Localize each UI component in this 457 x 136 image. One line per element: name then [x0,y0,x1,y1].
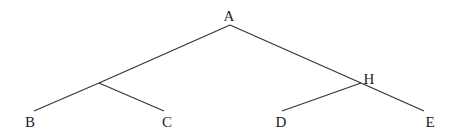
node-label-a: A [224,8,235,24]
node-label-c: C [162,114,172,130]
edge-h-d [282,83,361,111]
tree-edges [34,25,424,111]
edge-a-h [230,25,361,83]
node-label-e: E [425,114,434,130]
tree-labels: AHBCDE [25,8,435,130]
edge-a-n1 [99,25,230,83]
tree-diagram: AHBCDE [0,0,457,136]
edge-n1-b [34,83,99,111]
node-label-b: B [25,114,35,130]
edge-n1-c [99,83,164,111]
node-label-d: D [276,114,287,130]
node-label-h: H [364,71,375,87]
edge-h-e [361,83,424,111]
